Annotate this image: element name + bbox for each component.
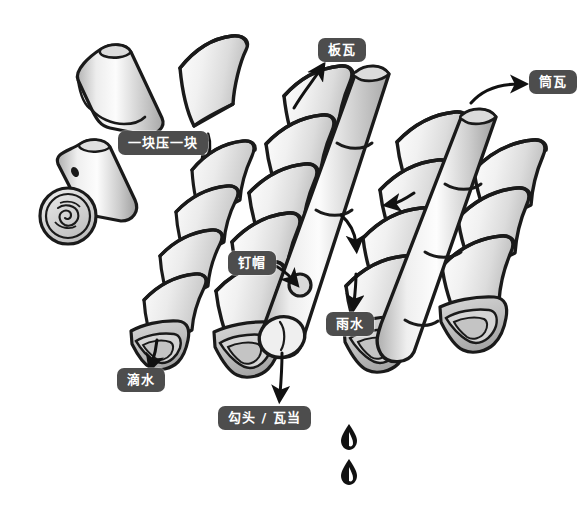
drip-tile-far-right xyxy=(440,297,507,352)
tile-diagram-canvas: 板瓦 筒瓦 一块压一块 钉帽 雨水 滴水 勾头 / 瓦当 xyxy=(0,0,585,505)
label-tong-wa[interactable]: 筒瓦 xyxy=(529,70,577,94)
label-ban-wa[interactable]: 板瓦 xyxy=(318,38,366,62)
water-drops xyxy=(341,424,357,485)
label-yi-kuai-ya-yi-kuai[interactable]: 一块压一块 xyxy=(118,131,208,155)
tong-wa-arrow xyxy=(471,84,519,103)
label-ding-mao[interactable]: 钉帽 xyxy=(228,251,276,275)
drip-tile-left xyxy=(131,321,189,370)
loose-eave-tile xyxy=(40,140,137,244)
label-gou-tou-wa-dang[interactable]: 勾头 / 瓦当 xyxy=(218,406,311,430)
label-di-shui[interactable]: 滴水 xyxy=(117,368,165,392)
loose-barrel-tile xyxy=(77,45,163,135)
loose-flat-tile xyxy=(180,36,247,126)
wadang-round-end xyxy=(40,188,96,244)
label-yu-shui[interactable]: 雨水 xyxy=(326,312,374,336)
